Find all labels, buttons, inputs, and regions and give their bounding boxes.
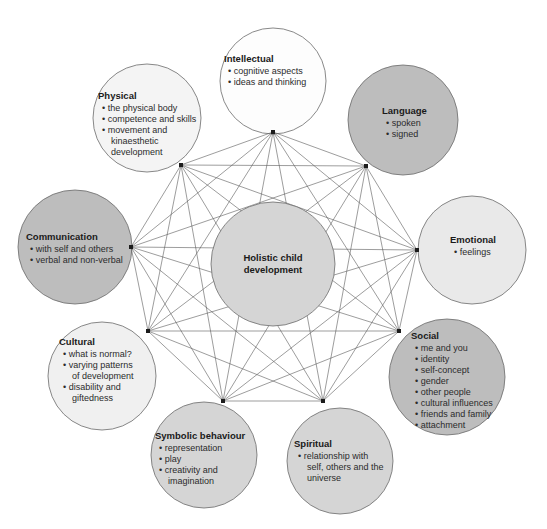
node-bullet-social-7: • attachment — [415, 420, 466, 430]
node-bullet-social-2: • self-concept — [415, 365, 470, 375]
node-title-symbolic-behaviour: Symbolic behaviour — [155, 430, 246, 441]
connection-language-to-social — [366, 166, 399, 331]
node-bullet-social-1: • identity — [415, 354, 450, 364]
node-bullet-social-4: • other people — [415, 387, 471, 397]
node-bullet-social-3: • gender — [415, 376, 449, 386]
node-bullet-communication-1: • verbal and non-verbal — [30, 255, 123, 265]
hub-dot-cultural — [146, 329, 150, 333]
connection-communication-to-cultural — [131, 247, 148, 331]
connection-physical-to-cultural — [148, 165, 181, 331]
hub-dot-emotional — [415, 248, 419, 252]
center-label-line-2: development — [244, 264, 303, 275]
node-title-intellectual: Intellectual — [224, 53, 274, 64]
connection-physical-to-language — [181, 165, 366, 166]
node-bullet-language-0: • spoken — [386, 118, 421, 128]
center-label-line-1: Holistic child — [243, 252, 302, 263]
node-bullet-cultural-3: • disability and — [63, 382, 121, 392]
node-bullet-spiritual-1: self, others and the — [307, 462, 384, 472]
connection-cultural-to-symbolic-behaviour — [148, 331, 223, 401]
node-bullet-symbolic-behaviour-3: imagination — [168, 476, 214, 486]
node-title-social: Social — [411, 330, 439, 341]
node-bullet-physical-0: • the physical body — [102, 103, 178, 113]
hub-dot-intellectual — [271, 130, 275, 134]
node-title-spiritual: Spiritual — [294, 438, 332, 449]
node-bullet-intellectual-1: • ideas and thinking — [228, 77, 306, 87]
center-node-layer: Holistic childdevelopment — [211, 202, 335, 326]
hub-dot-social — [397, 329, 401, 333]
connection-cultural-to-spiritual — [148, 331, 323, 401]
node-title-communication: Communication — [26, 231, 98, 242]
node-bullet-symbolic-behaviour-1: • play — [159, 454, 182, 464]
node-bullet-cultural-1: • varying patterns — [63, 360, 133, 370]
node-title-cultural: Cultural — [59, 336, 95, 347]
node-bullet-spiritual-2: universe — [307, 473, 341, 483]
node-bullet-cultural-2: of development — [72, 371, 134, 381]
connection-language-to-emotional — [366, 166, 417, 250]
node-bullet-physical-1: • competence and skills — [102, 114, 197, 124]
node-bullet-symbolic-behaviour-0: • representation — [159, 443, 222, 453]
hub-dot-symbolic-behaviour — [221, 399, 225, 403]
node-bullet-physical-4: development — [111, 147, 163, 157]
connection-social-to-spiritual — [323, 331, 399, 401]
connection-social-to-symbolic-behaviour — [223, 331, 399, 401]
hub-dot-communication — [129, 245, 133, 249]
node-bullet-social-6: • friends and family — [415, 409, 492, 419]
node-bullet-cultural-0: • what is normal? — [63, 349, 132, 359]
node-bullet-social-0: • me and you — [415, 343, 468, 353]
diagram-canvas: Holistic childdevelopment Intellectual• … — [0, 0, 547, 529]
node-title-physical: Physical — [98, 90, 137, 101]
node-bullet-physical-2: • movement and — [102, 125, 167, 135]
hub-dot-physical — [179, 163, 183, 167]
node-bullet-social-5: • cultural influences — [415, 398, 493, 408]
holistic-child-development-diagram: Holistic childdevelopment Intellectual• … — [0, 0, 547, 529]
node-bullet-cultural-4: giftedness — [72, 393, 114, 403]
node-bullet-emotional-0: • feelings — [454, 247, 491, 257]
node-bullet-communication-0: • with self and others — [30, 244, 114, 254]
hub-dot-spiritual — [321, 399, 325, 403]
connection-physical-to-communication — [131, 165, 181, 247]
node-title-language: Language — [382, 105, 427, 116]
hub-dot-language — [364, 164, 368, 168]
node-title-emotional: Emotional — [450, 234, 496, 245]
node-bullet-language-1: • signed — [386, 129, 418, 139]
node-bullet-physical-3: kinaesthetic — [111, 136, 159, 146]
node-bullet-intellectual-0: • cognitive aspects — [228, 66, 303, 76]
node-bullet-spiritual-0: • relationship with — [298, 451, 368, 461]
node-bullet-symbolic-behaviour-2: • creativity and — [159, 465, 218, 475]
